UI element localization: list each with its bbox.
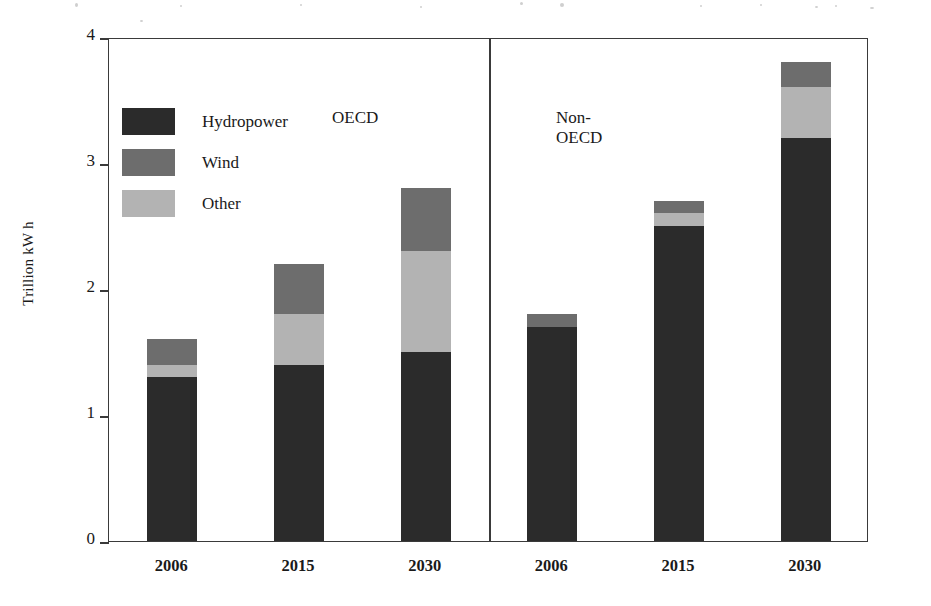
bar-segment-other [781,87,831,137]
x-axis-tick-label: 2030 [760,556,850,576]
y-axis-tick-mark [100,164,109,166]
scan-artifact [0,0,931,14]
bar-segment-wind [654,201,704,214]
scan-speck [560,3,564,7]
bar-segment-wind [781,62,831,87]
x-axis-tick-label: 2006 [506,556,596,576]
x-axis-tick-label: 2015 [633,556,723,576]
scan-speck [140,20,143,22]
chart-figure: Trillion kW h 01234 20062015203020062015… [0,0,931,606]
legend-label: Other [202,194,241,214]
y-axis-tick-label: 4 [87,26,96,43]
bar-segment-hydropower [274,365,324,541]
panel-label-non-oecd: Non- OECD [556,108,602,148]
x-axis-tick-label: 2006 [126,556,216,576]
scan-speck [300,4,302,6]
bar-segment-wind [401,188,451,251]
bar-segment-hydropower [401,352,451,541]
y-axis-title: Trillion kW h [20,174,37,354]
bar-segment-wind [147,339,197,364]
bar-segment-other [401,251,451,352]
bar-segment-hydropower [654,226,704,541]
scan-speck [700,5,702,7]
legend-label: Wind [202,153,239,173]
scan-speck [180,5,182,7]
y-axis-tick-mark [100,290,109,292]
stacked-bar [527,314,577,541]
legend-swatch-other [122,190,175,217]
stacked-bar [654,201,704,541]
bar-segment-wind [274,264,324,314]
scan-speck [760,4,762,6]
panel-divider [489,39,491,541]
bar-segment-other [654,213,704,226]
stacked-bar [147,339,197,541]
stacked-bar [274,264,324,541]
stacked-bar [401,188,451,541]
legend-item: Hydropower [122,101,288,142]
y-axis-tick-mark [100,38,109,40]
y-axis-tick-label: 0 [87,530,96,547]
legend-swatch-wind [122,149,175,176]
scan-speck [835,5,837,7]
legend-item: Other [122,183,288,224]
y-axis-tick-label: 3 [87,152,96,169]
bar-segment-wind [527,314,577,327]
x-axis-tick-label: 2030 [380,556,470,576]
y-axis-tick-mark [100,542,109,544]
y-axis-tick-mark [100,416,109,418]
bar-segment-hydropower [147,377,197,541]
legend-label: Hydropower [202,112,288,132]
scan-speck [815,6,818,8]
scan-speck [520,2,523,5]
x-axis-tick-label: 2015 [253,556,343,576]
bar-segment-other [274,314,324,364]
scan-speck [870,7,874,9]
y-axis-tick-label: 2 [87,278,96,295]
y-axis-tick-label: 1 [87,404,96,421]
chart-legend: HydropowerWindOther [122,101,288,224]
bar-segment-hydropower [527,327,577,541]
bar-segment-other [147,365,197,378]
scan-speck [420,6,422,8]
legend-swatch-hydropower [122,108,175,135]
legend-item: Wind [122,142,288,183]
scan-speck [75,3,78,7]
panel-label-oecd: OECD [332,108,378,128]
bar-segment-hydropower [781,138,831,541]
stacked-bar [781,62,831,541]
